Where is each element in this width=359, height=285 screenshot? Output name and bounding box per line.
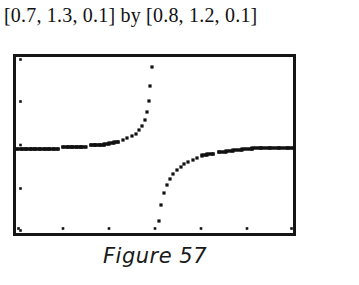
figure-caption: Figure 57 xyxy=(0,244,310,268)
plot-area xyxy=(13,54,296,236)
plot-canvas xyxy=(13,54,296,236)
data-point-layer xyxy=(15,65,294,222)
figure-root: [0.7, 1.3, 0.1] by [0.8, 1.2, 0.1] Figur… xyxy=(0,0,359,285)
calculator-window-range-title: [0.7, 1.3, 0.1] by [0.8, 1.2, 0.1] xyxy=(4,2,355,28)
axis-tick-dots xyxy=(17,58,293,232)
